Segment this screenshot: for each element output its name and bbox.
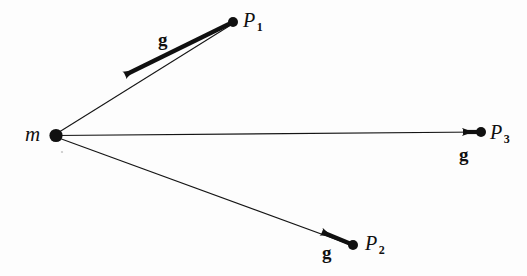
vector-label-g1: g [158, 30, 168, 49]
field-point-label-p3-subscript: 3 [504, 132, 511, 146]
field-point-label-p2: P2 [365, 233, 384, 253]
scan-speck [61, 151, 63, 153]
vector-g1 [125, 23, 231, 75]
field-point-label-p1: P1 [243, 10, 262, 30]
field-point-label-p2-subscript: 2 [379, 243, 386, 257]
field-point-dot-p1 [228, 17, 238, 27]
vector-label-g3: g [459, 145, 469, 164]
field-point-label-p2-text: P [365, 232, 378, 254]
mass-point-dot [49, 129, 62, 142]
ray-m-to-p1 [56, 23, 234, 134]
vector-label-g2: g [322, 243, 332, 262]
gravitational-field-diagram: m P1 P2 P3 g g g [0, 0, 527, 276]
mass-label: m [25, 124, 40, 145]
field-point-label-p1-text: P [243, 9, 256, 31]
ray-m-to-p3 [56, 132, 482, 136]
field-point-label-p1-subscript: 1 [257, 20, 264, 34]
field-point-dot-p2 [348, 240, 358, 250]
field-point-dot-p3 [476, 127, 486, 137]
field-point-label-p3-text: P [490, 121, 503, 143]
ray-m-to-p2 [56, 137, 354, 246]
field-point-label-p3: P3 [490, 122, 509, 142]
diagram-canvas [0, 0, 527, 276]
